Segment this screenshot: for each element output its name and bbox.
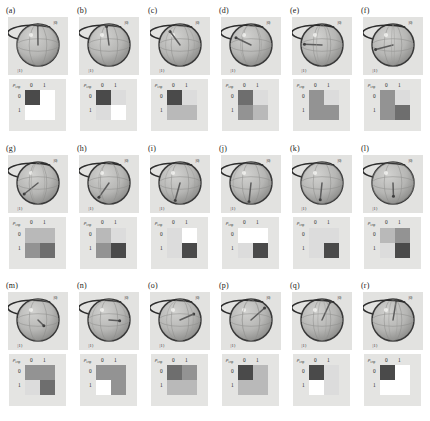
matrix-cell-10 — [167, 105, 182, 120]
matrix-row-header-0: 0 — [231, 231, 234, 237]
panel-label: (c) — [148, 6, 157, 16]
matrix-row-header-0: 0 — [89, 231, 92, 237]
matrix-col-header-0: 0 — [30, 357, 33, 363]
density-matrix: ρexp 0 1 0 1 — [222, 354, 279, 406]
matrix-cell-11 — [324, 105, 339, 120]
panel-label: (b) — [77, 6, 87, 16]
matrix-col-header-1: 1 — [114, 219, 117, 225]
ket-1-label: |1⟩ — [18, 68, 23, 73]
bloch-sphere-svg — [221, 292, 281, 350]
matrix-grid — [167, 228, 197, 258]
tomography-panel: (e) |0⟩ |1⟩ ρexp 0 1 0 1 — [286, 6, 357, 144]
bloch-sphere: |0⟩ |1⟩ — [292, 292, 352, 350]
ket-1-label: |1⟩ — [373, 68, 378, 73]
panel-label: (e) — [290, 6, 299, 16]
matrix-grid — [380, 365, 410, 395]
panel-label: (j) — [219, 144, 227, 154]
bloch-sphere: |0⟩ |1⟩ — [292, 17, 352, 75]
matrix-cell-01 — [395, 365, 410, 380]
tomography-panel: (a) |0⟩ |1⟩ ρexp 0 1 0 1 — [2, 6, 73, 144]
ket-0-label: |0⟩ — [266, 158, 271, 163]
bloch-sphere-svg — [363, 292, 423, 350]
panel-label: (r) — [361, 281, 370, 291]
matrix-col-header-0: 0 — [314, 357, 317, 363]
matrix-col-header-0: 0 — [243, 357, 246, 363]
matrix-cell-10 — [309, 105, 324, 120]
matrix-grid — [25, 228, 55, 258]
rho-label: ρexp — [297, 220, 304, 228]
matrix-cell-00 — [167, 90, 182, 105]
matrix-row-header-1: 1 — [18, 107, 21, 113]
matrix-cell-10 — [238, 243, 253, 258]
panel-label: (n) — [77, 281, 87, 291]
matrix-cell-10 — [96, 105, 111, 120]
matrix-row-header-1: 1 — [302, 245, 305, 251]
matrix-cell-11 — [253, 380, 268, 395]
matrix-cell-00 — [380, 90, 395, 105]
rho-label: ρexp — [226, 357, 233, 365]
matrix-row-header-0: 0 — [373, 93, 376, 99]
matrix-cell-10 — [380, 243, 395, 258]
rho-label: ρexp — [84, 82, 91, 90]
bloch-sphere-svg — [79, 155, 139, 213]
tomography-panel: (m) |0⟩ |1⟩ ρexp 0 1 0 1 — [2, 281, 73, 419]
matrix-row-header-1: 1 — [18, 245, 21, 251]
matrix-cell-01 — [253, 365, 268, 380]
bloch-sphere-svg — [221, 17, 281, 75]
matrix-cell-11 — [111, 105, 126, 120]
matrix-cell-10 — [96, 243, 111, 258]
panel-label: (k) — [290, 144, 300, 154]
density-matrix: ρexp 0 1 0 1 — [222, 79, 279, 131]
bloch-sphere-svg — [79, 292, 139, 350]
matrix-row-header-1: 1 — [160, 107, 163, 113]
matrix-cell-11 — [40, 243, 55, 258]
panel-grid: (a) |0⟩ |1⟩ ρexp 0 1 0 1 — [2, 6, 428, 419]
matrix-cell-00 — [309, 228, 324, 243]
density-matrix: ρexp 0 1 0 1 — [222, 217, 279, 269]
matrix-grid — [380, 228, 410, 258]
bloch-sphere-svg — [292, 292, 352, 350]
ket-0-label: |0⟩ — [195, 20, 200, 25]
matrix-cell-11 — [395, 243, 410, 258]
matrix-cell-00 — [25, 365, 40, 380]
matrix-cell-10 — [25, 380, 40, 395]
matrix-col-header-0: 0 — [101, 82, 104, 88]
density-matrix: ρexp 0 1 0 1 — [151, 79, 208, 131]
matrix-grid — [25, 365, 55, 395]
matrix-col-header-1: 1 — [398, 82, 401, 88]
matrix-col-header-1: 1 — [398, 357, 401, 363]
bloch-sphere: |0⟩ |1⟩ — [79, 292, 139, 350]
ket-0-label: |0⟩ — [337, 20, 342, 25]
bloch-sphere-svg — [292, 155, 352, 213]
matrix-cell-01 — [324, 90, 339, 105]
matrix-col-header-0: 0 — [172, 219, 175, 225]
matrix-cell-00 — [167, 228, 182, 243]
ket-0-label: |0⟩ — [266, 295, 271, 300]
matrix-cell-11 — [182, 105, 197, 120]
tomography-panel: (l) |0⟩ |1⟩ ρexp 0 1 0 1 — [357, 144, 428, 282]
rho-label: ρexp — [155, 82, 162, 90]
rho-label: ρexp — [13, 357, 20, 365]
panel-label: (l) — [361, 144, 369, 154]
matrix-cell-01 — [324, 228, 339, 243]
matrix-row-header-1: 1 — [302, 107, 305, 113]
bloch-sphere-svg — [363, 17, 423, 75]
matrix-row-header-1: 1 — [231, 107, 234, 113]
matrix-grid — [380, 90, 410, 120]
ket-1-label: |1⟩ — [89, 206, 94, 211]
matrix-row-header-1: 1 — [160, 245, 163, 251]
rho-label: ρexp — [226, 82, 233, 90]
ket-0-label: |0⟩ — [124, 295, 129, 300]
matrix-row-header-0: 0 — [160, 368, 163, 374]
density-matrix: ρexp 0 1 0 1 — [364, 217, 421, 269]
matrix-col-header-1: 1 — [185, 82, 188, 88]
ket-1-label: |1⟩ — [18, 343, 23, 348]
matrix-cell-11 — [395, 105, 410, 120]
ket-0-label: |0⟩ — [195, 158, 200, 163]
matrix-col-header-0: 0 — [101, 357, 104, 363]
matrix-col-header-1: 1 — [256, 82, 259, 88]
ket-1-label: |1⟩ — [18, 206, 23, 211]
density-matrix: ρexp 0 1 0 1 — [364, 354, 421, 406]
panel-label: (p) — [219, 281, 229, 291]
matrix-cell-10 — [25, 105, 40, 120]
